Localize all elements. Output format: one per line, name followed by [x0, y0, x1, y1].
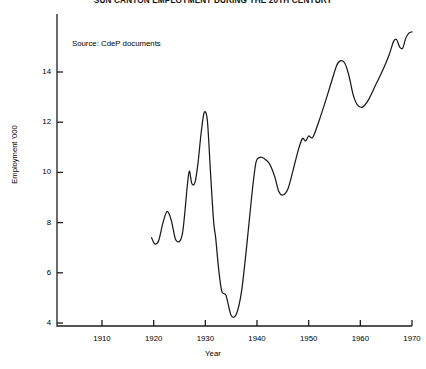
x-tick-label: 1950 — [292, 333, 326, 344]
x-tick-label: 1970 — [395, 333, 426, 344]
y-tick-label: 6 — [29, 268, 51, 278]
x-tick-label: 1930 — [188, 333, 222, 344]
x-tick-label: 1960 — [343, 333, 377, 344]
x-tick-label: 1940 — [240, 333, 274, 344]
y-tick-label: 8 — [29, 218, 51, 228]
chart-container: SUN CANTON EMPLOYMENT DURING THE 20TH CE… — [0, 0, 426, 369]
y-tick-label: 14 — [29, 67, 51, 77]
plot-area — [0, 0, 426, 369]
data-line-employment — [152, 32, 412, 317]
x-tick-label: 1910 — [85, 333, 119, 344]
y-tick-label: 4 — [29, 318, 51, 328]
y-tick-label: 12 — [29, 117, 51, 127]
y-tick-label: 10 — [29, 167, 51, 177]
x-tick-label: 1920 — [137, 333, 171, 344]
